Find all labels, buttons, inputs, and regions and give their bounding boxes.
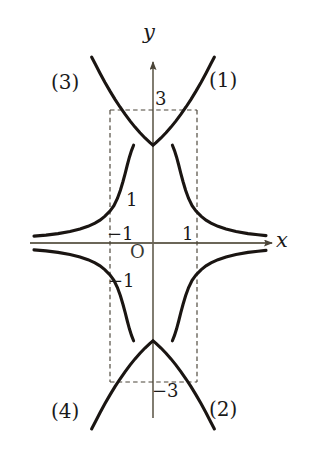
tick-label-y-3: 3 xyxy=(155,90,166,108)
branch-label-4: (4) xyxy=(51,401,79,421)
tick-label-y-minus-1: −1 xyxy=(108,272,135,290)
branch-label-1: (1) xyxy=(209,70,237,90)
y-axis-label: y xyxy=(143,22,155,43)
x-axis-label: x xyxy=(276,230,288,251)
tick-label-y-1: 1 xyxy=(126,191,137,209)
tick-label-y-minus-3: −3 xyxy=(152,382,179,400)
axis-lines xyxy=(30,62,272,418)
tick-label-x-1: 1 xyxy=(182,225,193,243)
curve-reciprocal-lower-right xyxy=(172,250,266,340)
curve-reciprocal-lower-left xyxy=(34,250,134,341)
branch-label-2: (2) xyxy=(209,399,237,419)
origin-label: O xyxy=(130,243,145,261)
branch-label-3: (3) xyxy=(51,72,79,92)
graph-figure: y x (3) (1) (4) (2) 3 1 −1 1 −1 −3 O xyxy=(0,0,312,454)
